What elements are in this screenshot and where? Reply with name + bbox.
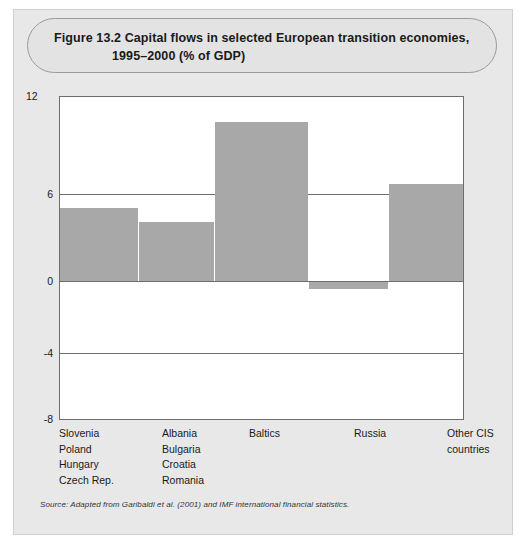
category-group-southeast-europe: Albania Bulgaria Croatia Romania <box>162 426 204 488</box>
y-tick-label-0: 0 <box>47 275 53 287</box>
bar-other-cis <box>389 184 463 281</box>
category-label: Baltics <box>249 426 280 442</box>
bar-baltics <box>215 122 308 281</box>
y-tick-label-minus-8: -8 <box>44 413 53 425</box>
category-label: Czech Rep. <box>59 473 114 489</box>
category-label: countries <box>447 442 494 458</box>
category-label: Other CIS <box>447 426 494 442</box>
figure-container: Figure 13.2 Capital flows in selected Eu… <box>13 9 513 535</box>
y-tick-label-6: 6 <box>47 188 53 200</box>
category-group-baltics: Baltics <box>249 426 280 442</box>
category-label: Albania <box>162 426 204 442</box>
gridline-minus-8: -8 <box>60 419 463 420</box>
category-label: Hungary <box>59 457 114 473</box>
category-label: Bulgaria <box>162 442 204 458</box>
bar-central-europe <box>60 208 138 281</box>
figure-title-plate: Figure 13.2 Capital flows in selected Eu… <box>27 18 497 73</box>
category-group-russia: Russia <box>354 426 386 442</box>
category-label: Croatia <box>162 457 204 473</box>
category-label: Romania <box>162 473 204 489</box>
category-group-other-cis: Other CIS countries <box>447 426 494 457</box>
category-label: Slovenia <box>59 426 114 442</box>
figure-title-line-2: 1995–2000 (% of GDP) <box>54 47 474 65</box>
category-group-central-europe: Slovenia Poland Hungary Czech Rep. <box>59 426 114 488</box>
gridline-minus-4: -4 <box>60 353 463 354</box>
category-label: Russia <box>354 426 386 442</box>
chart-plot-area: 12 6 0 -4 -8 <box>59 96 464 420</box>
bar-russia <box>309 282 388 289</box>
source-note: Source: Adapted from Garibaldi et al. (2… <box>40 500 349 509</box>
category-label: Poland <box>59 442 114 458</box>
bar-southeast-europe <box>139 222 214 281</box>
figure-title-line-1: Figure 13.2 Capital flows in selected Eu… <box>54 31 469 45</box>
y-tick-label-12: 12 <box>26 90 38 102</box>
y-tick-label-minus-4: -4 <box>44 347 53 359</box>
page-title: Figure 13.2 Capital flows in selected Eu… <box>54 29 474 65</box>
gridline-zero: 0 <box>60 281 463 282</box>
x-axis-category-labels: Slovenia Poland Hungary Czech Rep. Alban… <box>59 426 479 496</box>
